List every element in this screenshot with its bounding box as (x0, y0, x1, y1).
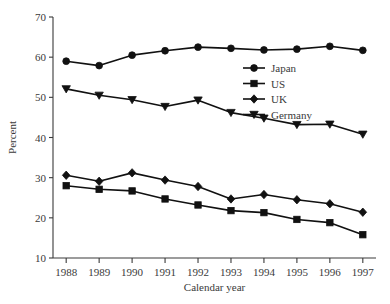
y-tick-label: 40 (35, 132, 47, 144)
data-point-us-1991 (162, 196, 168, 202)
legend-label-germany: Germany (271, 109, 312, 121)
data-point-japan-1995 (293, 46, 300, 53)
data-point-japan-1988 (63, 58, 70, 65)
x-tick-label: 1992 (187, 266, 209, 278)
y-tick-label: 30 (35, 172, 47, 184)
data-point-us-1988 (63, 183, 69, 189)
legend-marker-japan (251, 65, 258, 72)
data-point-us-1989 (96, 186, 102, 192)
x-tick-label: 1993 (220, 266, 243, 278)
line-chart: 1020304050607019881989199019911992199319… (0, 0, 390, 304)
x-tick-label: 1996 (319, 266, 342, 278)
data-point-japan-1992 (195, 44, 202, 51)
x-tick-label: 1990 (121, 266, 144, 278)
x-tick-label: 1995 (286, 266, 309, 278)
data-point-us-1993 (228, 207, 234, 213)
data-point-uk-1989 (95, 177, 103, 185)
data-point-uk-1990 (128, 169, 136, 177)
data-point-uk-1995 (293, 196, 301, 204)
data-point-japan-1993 (228, 45, 235, 52)
data-point-uk-1996 (326, 200, 334, 208)
data-point-uk-1994 (260, 190, 268, 198)
y-tick-label: 10 (35, 252, 47, 264)
data-point-japan-1990 (129, 52, 136, 59)
data-point-us-1997 (360, 232, 366, 238)
y-tick-label: 60 (35, 51, 47, 63)
data-point-germany-1991 (161, 103, 169, 110)
data-point-us-1990 (129, 188, 135, 194)
x-tick-label: 1988 (55, 266, 78, 278)
x-tick-label: 1997 (352, 266, 375, 278)
series-line-germany (66, 89, 363, 134)
data-point-uk-1993 (227, 195, 235, 203)
data-point-us-1996 (327, 219, 333, 225)
data-point-us-1992 (195, 202, 201, 208)
y-tick-label: 20 (35, 212, 47, 224)
data-point-uk-1992 (194, 182, 202, 190)
series-japan (63, 43, 366, 69)
y-axis-title: Percent (6, 121, 18, 154)
chart-canvas: 1020304050607019881989199019911992199319… (0, 0, 390, 304)
chart-legend: JapanUSUKGermany (243, 62, 312, 121)
legend-label-uk: UK (271, 93, 287, 105)
data-point-uk-1991 (161, 176, 169, 184)
y-tick-label: 50 (35, 91, 47, 103)
x-tick-label: 1991 (154, 266, 176, 278)
series-uk (62, 169, 366, 217)
legend-marker-us (251, 80, 257, 86)
data-point-japan-1991 (162, 47, 169, 54)
data-point-us-1994 (261, 209, 267, 215)
series-germany (62, 86, 367, 139)
data-point-japan-1994 (261, 47, 268, 54)
data-point-us-1995 (294, 216, 300, 222)
series-line-japan (66, 46, 363, 65)
legend-label-us: US (271, 78, 285, 90)
x-axis-title: Calendar year (184, 281, 246, 293)
series-us (63, 183, 366, 238)
data-point-japan-1997 (359, 47, 366, 54)
data-point-japan-1996 (326, 43, 333, 50)
legend-label-japan: Japan (271, 62, 297, 74)
data-point-uk-1988 (62, 171, 70, 179)
legend-marker-uk (250, 95, 258, 103)
data-point-uk-1997 (359, 208, 367, 216)
y-tick-label: 70 (35, 11, 47, 23)
series-line-uk (66, 173, 363, 212)
x-tick-label: 1989 (88, 266, 111, 278)
x-tick-label: 1994 (253, 266, 276, 278)
data-point-germany-1997 (359, 131, 367, 138)
data-point-japan-1989 (96, 62, 103, 69)
